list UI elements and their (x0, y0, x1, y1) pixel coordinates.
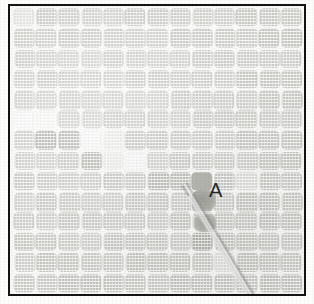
array-spot (281, 29, 302, 47)
array-spot (281, 274, 302, 292)
figure-frame-border: A (8, 4, 306, 296)
spot-array-grid (10, 6, 304, 294)
array-spot (103, 8, 124, 26)
array-spot (236, 29, 257, 47)
array-spot (14, 91, 35, 109)
array-spot (15, 152, 36, 170)
array-spot (236, 131, 257, 149)
array-spot (147, 50, 168, 68)
array-spot (170, 70, 191, 88)
array-spot (191, 131, 212, 149)
array-spot (81, 91, 102, 109)
array-spot (237, 50, 258, 68)
array-spot (148, 274, 169, 292)
array-spot (192, 152, 213, 170)
array-spot (15, 50, 36, 68)
array-spot (36, 29, 57, 47)
array-spot (59, 29, 80, 47)
array-spot (36, 193, 57, 211)
array-spot (58, 152, 79, 170)
array-spot (124, 212, 145, 230)
array-spot (215, 233, 236, 251)
array-spot (104, 233, 125, 251)
array-spot (13, 8, 34, 26)
array-spot (14, 172, 35, 190)
array-spot (191, 70, 212, 88)
array-spot (214, 212, 235, 230)
array-spot (170, 131, 191, 149)
array-spot (236, 8, 257, 26)
array-spot (169, 8, 190, 26)
array-spot (237, 253, 258, 271)
array-spot (236, 274, 257, 292)
array-spot (214, 8, 235, 26)
array-spot (236, 110, 257, 128)
array-spot (259, 212, 280, 230)
array-spot (13, 212, 34, 230)
array-spot (170, 233, 191, 251)
array-spot (36, 131, 57, 149)
array-spot (236, 172, 257, 190)
array-spot (80, 29, 101, 47)
array-spot (125, 29, 146, 47)
array-spot (36, 91, 57, 109)
array-spot (124, 8, 145, 26)
array-spot (37, 110, 58, 128)
array-spot (13, 110, 34, 128)
array-spot (147, 233, 168, 251)
array-spot (80, 131, 101, 149)
array-spot (192, 50, 213, 68)
array-spot (58, 110, 79, 128)
array-spot (58, 70, 79, 88)
array-spot (124, 110, 145, 128)
array-spot (81, 212, 102, 230)
scanned-figure: A (0, 0, 314, 304)
array-spot (148, 172, 169, 190)
array-spot (147, 253, 168, 271)
array-spot (36, 152, 57, 170)
array-spot (214, 110, 235, 128)
array-spot (281, 70, 302, 88)
array-spot (259, 253, 280, 271)
array-spot (280, 212, 301, 230)
array-spot (126, 253, 147, 271)
array-spot (191, 233, 212, 251)
array-spot (37, 172, 58, 190)
array-spot (169, 152, 190, 170)
array-spot (281, 172, 302, 190)
array-spot (148, 70, 169, 88)
array-spot (81, 193, 102, 211)
array-spot (36, 50, 57, 68)
array-spot (259, 110, 280, 128)
array-spot (215, 29, 236, 47)
array-spot (193, 212, 214, 230)
array-spot (170, 29, 191, 47)
array-spot (280, 152, 301, 170)
array-spot (125, 193, 146, 211)
array-spot (213, 91, 234, 109)
array-spot (237, 193, 258, 211)
array-spot (215, 131, 236, 149)
array-spot (170, 172, 191, 190)
annotation-label-a: A (209, 180, 222, 200)
array-spot (148, 110, 169, 128)
array-spot (280, 253, 301, 271)
array-spot (103, 274, 124, 292)
array-spot (80, 172, 101, 190)
array-spot (58, 50, 79, 68)
array-spot (280, 110, 301, 128)
array-spot (258, 29, 279, 47)
array-spot (103, 172, 124, 190)
array-spot (259, 274, 280, 292)
array-spot (170, 274, 191, 292)
array-spot (147, 193, 168, 211)
array-spot (236, 212, 257, 230)
array-spot (281, 233, 302, 251)
array-spot (259, 172, 280, 190)
array-spot (59, 233, 80, 251)
array-spot (281, 131, 302, 149)
array-spot (258, 131, 279, 149)
array-spot (58, 253, 79, 271)
array-spot (37, 8, 58, 26)
array-spot (147, 29, 168, 47)
